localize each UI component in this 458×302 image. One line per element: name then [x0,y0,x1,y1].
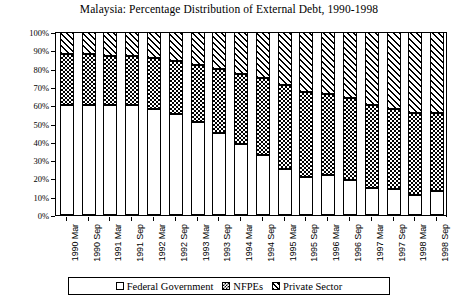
bar-segment-private-sector [212,32,226,69]
x-axis-tick-mark [175,217,176,221]
bar-segment-private-sector [408,32,422,113]
x-axis-tick-label: 1994 Sep [266,224,276,282]
bar-segment-federal-government [299,177,313,215]
bar-segment-private-sector [430,32,444,113]
stacked-bar[interactable] [408,33,422,215]
y-axis-tick-label: 0% [12,211,49,221]
legend-item-nfpes[interactable]: NFPEs [222,281,263,292]
bar-segment-nfpes [103,56,117,105]
x-axis-tick-label: 1995 Sep [309,224,319,282]
bar-segment-private-sector [82,32,96,54]
legend-label-federal-government: Federal Government [127,281,214,292]
x-axis-tick-label: 1996 Mar [331,224,341,282]
stacked-bar[interactable] [387,33,401,215]
bar-segment-federal-government [147,109,161,215]
bar-segment-private-sector [103,32,117,56]
bar-segment-nfpes [234,74,248,144]
bar-segment-private-sector [147,32,161,58]
bar-segment-federal-government [125,105,139,215]
y-axis-tick-label: 20% [12,174,49,184]
bar-segment-federal-government [256,155,270,215]
plot-area [55,33,447,216]
x-axis-tick-mark [414,217,415,221]
y-axis-tick-label: 90% [12,46,49,56]
x-axis-tick-label: 1997 Mar [375,224,385,282]
bar-segment-nfpes [321,94,335,175]
bar-segment-nfpes [125,56,139,105]
y-axis-tick-label: 70% [12,83,49,93]
x-axis-tick-mark [349,217,350,221]
bar-segment-private-sector [299,32,313,92]
bar-segment-private-sector [387,32,401,109]
stacked-bar[interactable] [299,33,313,215]
x-axis-tick-label: 1998 Sep [440,224,450,282]
bar-segment-federal-government [387,189,401,215]
bar-segment-private-sector [169,32,183,61]
bar-segment-nfpes [256,78,270,155]
bar-segment-nfpes [387,109,401,190]
bar-segment-federal-government [169,114,183,215]
stacked-bar[interactable] [212,33,226,215]
bar-segment-nfpes [365,105,379,187]
bar-segment-federal-government [103,105,117,215]
x-axis-tick-mark [131,217,132,221]
stacked-bar[interactable] [125,33,139,215]
x-axis-tick-label: 1990 Sep [92,224,102,282]
stacked-bar[interactable] [430,33,444,215]
stacked-bar[interactable] [234,33,248,215]
x-axis-tick-label: 1992 Mar [157,224,167,282]
stacked-bar[interactable] [147,33,161,215]
x-axis-tick-label: 1997 Sep [397,224,407,282]
bar-segment-nfpes [147,58,161,109]
y-axis-tick-label: 30% [12,156,49,166]
private-sector-swatch-icon [272,282,280,290]
bar-segment-nfpes [408,113,422,195]
y-axis-tick-mark [51,216,55,217]
bar-segment-federal-government [60,105,74,215]
x-axis-tick-label: 1993 Mar [201,224,211,282]
stacked-bar[interactable] [256,33,270,215]
bar-segment-federal-government [430,191,444,215]
stacked-bar[interactable] [343,33,357,215]
stacked-bar[interactable] [60,33,74,215]
x-axis-tick-mark [436,217,437,221]
stacked-bar[interactable] [103,33,117,215]
bar-segment-private-sector [365,32,379,105]
legend-item-federal-government[interactable]: Federal Government [116,281,214,292]
x-axis-tick-mark [305,217,306,221]
chart-title: Malaysia: Percentage Distribution of Ext… [0,3,458,15]
x-axis-tick-label: 1990 Mar [70,224,80,282]
bar-segment-federal-government [365,188,379,215]
stacked-bar[interactable] [278,33,292,215]
bar-segment-federal-government [212,133,226,215]
legend-item-private-sector[interactable]: Private Sector [272,281,342,292]
nfpes-swatch-icon [222,282,230,290]
x-axis-tick-mark [197,217,198,221]
stacked-bar[interactable] [365,33,379,215]
bar-segment-nfpes [82,54,96,105]
stacked-bar[interactable] [321,33,335,215]
stacked-bar[interactable] [82,33,96,215]
stacked-bar[interactable] [169,33,183,215]
bar-segment-nfpes [343,98,357,180]
x-axis-tick-mark [371,217,372,221]
x-axis-tick-label: 1991 Sep [135,224,145,282]
chart-container: Malaysia: Percentage Distribution of Ext… [0,0,458,302]
stacked-bar[interactable] [191,33,205,215]
bar-segment-private-sector [278,32,292,85]
bar-segment-private-sector [234,32,248,74]
y-axis-tick-label: 60% [12,101,49,111]
x-axis-tick-mark [109,217,110,221]
x-axis-tick-mark [88,217,89,221]
federal-government-swatch-icon [116,282,124,290]
bar-segment-private-sector [256,32,270,78]
bar-segment-nfpes [278,85,292,169]
bars-layer [56,33,447,215]
chart-legend: Federal Government NFPEs Private Sector [68,277,390,295]
x-axis-tick-label: 1995 Mar [288,224,298,282]
x-axis-tick-mark [66,217,67,221]
x-axis-tick-label: 1991 Mar [113,224,123,282]
bar-segment-nfpes [191,65,205,122]
bar-segment-federal-government [191,122,205,215]
bar-segment-nfpes [430,113,444,192]
